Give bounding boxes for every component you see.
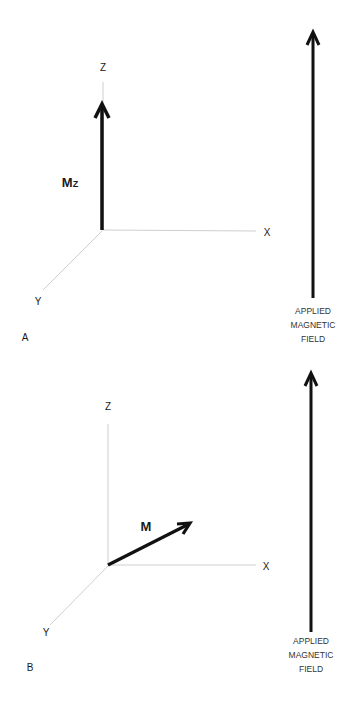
- panel-b-y-label: Y: [43, 628, 50, 638]
- panel-a-diagram: [43, 32, 319, 298]
- field-label-line: FIELD: [289, 662, 334, 676]
- panel-b-label: B: [27, 663, 34, 673]
- field-label-line: APPLIED: [291, 304, 336, 318]
- panel-b-field-label: APPLIED MAGNETIC FIELD: [289, 634, 334, 676]
- panel-a-x-axis: [102, 230, 256, 231]
- mz-label: MZ: [62, 176, 78, 189]
- panel-a-z-label: Z: [100, 63, 106, 73]
- m-label: M: [141, 520, 152, 533]
- panel-a-field-label: APPLIED MAGNETIC FIELD: [291, 304, 336, 346]
- panel-a-applied-field-arrow: [307, 32, 319, 298]
- panel-b-z-label: Z: [105, 402, 111, 412]
- field-label-line: MAGNETIC: [289, 648, 334, 662]
- diagram-canvas: [0, 0, 358, 708]
- panel-b-diagram: [50, 373, 317, 632]
- field-label-line: APPLIED: [289, 634, 334, 648]
- field-label-line: FIELD: [291, 332, 336, 346]
- mz-vector-arrow: [95, 104, 109, 230]
- panel-a-y-label: Y: [35, 297, 42, 307]
- panel-b-applied-field-arrow: [305, 373, 317, 632]
- panel-a-x-label: X: [264, 228, 271, 238]
- panel-b-y-axis: [50, 566, 108, 625]
- panel-a-label: A: [22, 333, 29, 343]
- field-label-line: MAGNETIC: [291, 318, 336, 332]
- panel-b-x-label: X: [263, 562, 270, 572]
- panel-a-y-axis: [43, 231, 102, 290]
